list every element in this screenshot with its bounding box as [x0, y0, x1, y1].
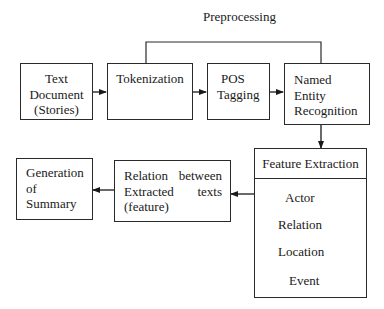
node-generation-line-2: of — [26, 181, 84, 197]
node-generation-line-3: Summary — [26, 196, 84, 212]
node-text-document-line-2: Document — [21, 87, 92, 103]
relation-word-2: between — [179, 168, 222, 184]
node-text-document-line-3: (Stories) — [21, 102, 92, 118]
feature-item-relation: Relation — [278, 217, 322, 233]
relation-word-1: Relation — [124, 168, 168, 184]
node-pos-tagging: POS Tagging — [207, 63, 270, 120]
node-ner-line-2: Entity — [294, 88, 358, 104]
node-generation-line-1: Generation — [26, 165, 84, 181]
feature-item-event: Event — [289, 273, 319, 289]
node-pos-line-1: POS — [217, 71, 259, 87]
feature-item-actor: Actor — [285, 190, 315, 206]
node-text-document: Text Document (Stories) — [20, 63, 93, 120]
node-ner-line-3: Recognition — [294, 103, 358, 119]
feature-extraction-header: Feature Extraction — [255, 149, 366, 179]
relation-word-3: Extracted — [124, 184, 174, 200]
preprocessing-label: Preprocessing — [203, 9, 276, 25]
relation-word-4: texts — [197, 184, 222, 200]
preprocessing-bracket — [146, 42, 321, 63]
node-text-document-line-1: Text — [21, 71, 92, 87]
node-feature-extraction: Feature Extraction Actor Relation Locati… — [254, 148, 367, 298]
node-named-entity-recognition: Named Entity Recognition — [284, 63, 370, 125]
feature-extraction-title: Feature Extraction — [255, 156, 366, 172]
node-relation-between-texts: Relation between Extracted texts (featur… — [114, 160, 231, 222]
node-generation-of-summary: Generation of Summary — [16, 158, 93, 220]
feature-item-location: Location — [278, 244, 324, 260]
node-tokenization: Tokenization — [107, 63, 193, 120]
relation-word-5: (feature) — [124, 199, 222, 215]
node-pos-line-2: Tagging — [217, 87, 259, 103]
node-tokenization-label: Tokenization — [108, 71, 192, 87]
node-ner-line-1: Named — [294, 72, 358, 88]
